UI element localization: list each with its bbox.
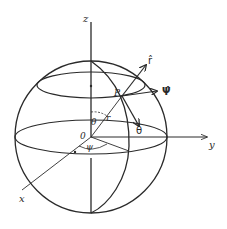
r-hat-label: r̂ xyxy=(148,55,153,66)
radius-label: r xyxy=(106,113,111,123)
y-axis-label: y xyxy=(208,139,215,150)
origin-label: 0 xyxy=(80,131,86,141)
r-projection-line xyxy=(91,137,129,151)
x-axis xyxy=(22,137,91,190)
theta-arc xyxy=(91,112,107,116)
point-p-label: P xyxy=(113,88,121,98)
theta-angle-label: θ xyxy=(91,117,97,127)
theta-hat-label: θ̂ xyxy=(136,123,142,136)
psi-angle-label: ψ xyxy=(86,142,94,152)
x-axis-label: x xyxy=(19,193,25,204)
latitude-center-dot xyxy=(90,85,92,87)
psi-hat-label: Ψ̂ xyxy=(162,86,171,97)
spherical-coordinates-diagram: z y x 0 P r θ ψ r̂ Ψ̂ θ̂ xyxy=(0,0,227,229)
x-axis-equator-dot xyxy=(74,151,76,153)
z-axis-label: z xyxy=(82,13,89,24)
psi-hat-vector xyxy=(122,91,157,96)
